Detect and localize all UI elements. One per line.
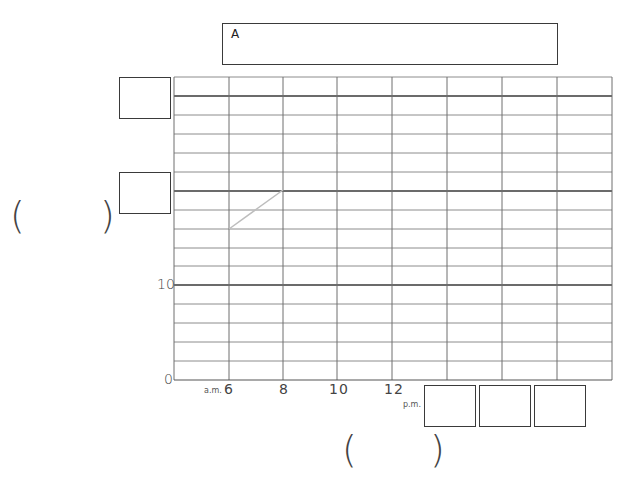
x-tick-12: 12 [384,381,404,397]
pm-label: p.m. [403,400,421,409]
major-gridlines [174,96,612,285]
x-axis-answer-box-6pm[interactable] [534,385,586,427]
y-tick-10: 10 [157,276,175,292]
horizontal-gridlines [174,77,612,361]
x-axis-answer-box-4pm[interactable] [479,385,531,427]
am-label: a.m. [204,386,222,395]
x-tick-6: 6 [224,381,233,397]
x-unit-close-paren: ) [430,430,445,468]
x-axis-answer-box-2pm[interactable] [424,385,476,427]
x-tick-8: 8 [279,381,288,397]
x-unit-open-paren: ( [342,430,357,468]
y-tick-0: 0 [164,371,173,387]
x-tick-10: 10 [329,381,349,397]
faint-data-dot [336,142,338,144]
x-unit-answer-field[interactable] [362,434,430,470]
